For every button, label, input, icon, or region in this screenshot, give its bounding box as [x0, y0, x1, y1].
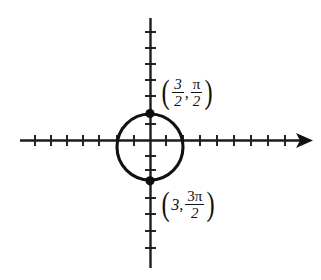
fraction-theta-bottom-denominator: 2 — [185, 205, 204, 221]
fraction-theta-top-denominator: 2 — [191, 93, 203, 109]
close-paren-top: ) — [205, 78, 213, 107]
close-paren-bottom: ) — [207, 190, 215, 219]
point-marker-top — [145, 109, 154, 118]
point-label-bottom: (3,3π2) — [160, 188, 217, 221]
fraction-theta-bottom: 3π2 — [184, 188, 205, 221]
fraction-r-top: 32 — [171, 76, 185, 109]
polar-graph-figure — [0, 0, 321, 280]
fraction-theta-top: π2 — [190, 76, 204, 109]
open-paren-bottom: ( — [162, 190, 170, 219]
point-label-top: (32,π2) — [160, 76, 215, 109]
fraction-r-top-denominator: 2 — [172, 93, 184, 109]
open-paren-top: ( — [162, 78, 170, 107]
fraction-r-top-numerator: 3 — [172, 76, 184, 93]
point-marker-bottom — [145, 176, 154, 185]
label-r-bottom: 3 — [171, 197, 179, 213]
fraction-theta-top-numerator: π — [191, 76, 203, 93]
fraction-theta-bottom-numerator: 3π — [185, 188, 204, 205]
